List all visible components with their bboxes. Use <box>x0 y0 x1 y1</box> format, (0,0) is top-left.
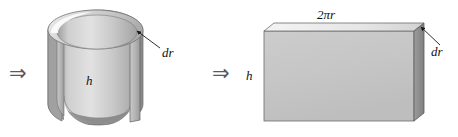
slab-thickness-label: dr <box>431 44 444 59</box>
slab-right-side-face-dr <box>414 23 424 121</box>
cylindrical-shell-panel: ⇒ dr h <box>9 10 175 137</box>
slab-width-label: 2πr <box>317 7 336 22</box>
implication-arrow-left-icon: ⇒ <box>9 61 27 85</box>
shell-thickness-label: dr <box>162 45 175 60</box>
shell-height-label: h <box>86 73 93 88</box>
shell-to-slab-diagram: ⇒ dr h <box>0 0 458 137</box>
figure-canvas: ⇒ dr h <box>0 0 458 137</box>
implication-arrow-right-icon: ⇒ <box>212 61 230 85</box>
slab-height-label: h <box>246 68 253 83</box>
unrolled-slab-panel: ⇒ dr 2πr h <box>212 7 444 121</box>
slab-top-face <box>264 23 424 31</box>
slab-front-face <box>264 31 414 121</box>
